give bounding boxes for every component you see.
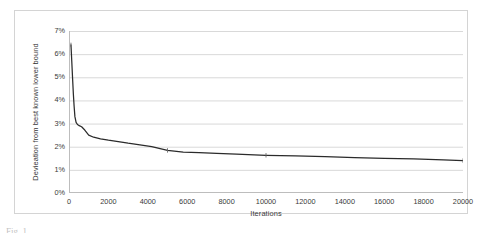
x-axis-tick-label: 20000 [453, 198, 473, 206]
x-axis-tick-label: 10000 [256, 198, 276, 206]
plot-area: Devieation from best known lower bound 0… [69, 31, 463, 193]
x-axis-tick-label: 18000 [413, 198, 433, 206]
x-axis-tick-label: 14000 [335, 198, 355, 206]
x-axis-title: Iterations [69, 209, 463, 218]
x-axis-tick-label: 2000 [100, 198, 116, 206]
line-chart-plot [69, 31, 463, 193]
y-axis-tick-label: 5% [54, 73, 65, 81]
x-axis-tick-label: 12000 [295, 198, 315, 206]
axis-lines [69, 31, 463, 193]
y-axis-tick-label: 6% [54, 50, 65, 58]
y-axis-tick-label: 4% [54, 96, 65, 104]
y-axis-tick-label: 1% [54, 166, 65, 174]
figure-caption: Fig. 1 [6, 226, 27, 233]
chart-frame: Devieation from best known lower bound 0… [14, 10, 468, 214]
y-axis-tick-label: 0% [54, 189, 65, 197]
y-axis-tick-label: 7% [54, 27, 65, 35]
x-axis-tick-label: 16000 [374, 198, 394, 206]
x-axis-tick-label: 4000 [140, 198, 156, 206]
x-axis-tick-label: 6000 [179, 198, 195, 206]
axis-tickmarks [69, 32, 463, 194]
data-point-markers [71, 43, 463, 163]
x-axis-tick-label: 0 [67, 198, 71, 206]
y-axis-tick-label: 2% [54, 143, 65, 151]
y-axis-title: Devieation from best known lower bound [29, 31, 43, 193]
y-axis-tick-label: 3% [54, 120, 65, 128]
gridlines [69, 32, 463, 171]
data-series-group [71, 45, 463, 161]
x-axis-tick-label: 8000 [218, 198, 234, 206]
